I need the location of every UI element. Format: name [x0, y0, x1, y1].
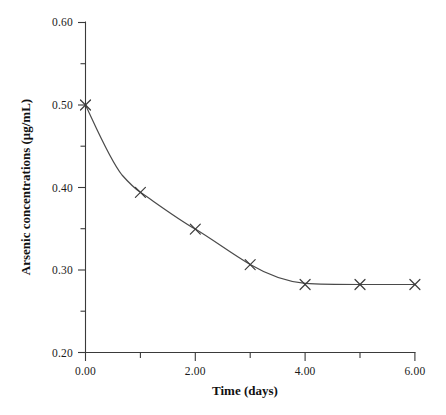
chart-page: 0.60 0.50 0.40 0.30 0.20 0.00 2.00 4.00 … [0, 0, 446, 415]
y-tick-label-040: 0.40 [52, 182, 73, 194]
x-tick-label-200: 2.00 [185, 365, 206, 377]
x-tick-label-000: 0.00 [75, 365, 96, 377]
y-axis-title: Arsenic concentrations (μg/mL) [18, 99, 33, 275]
arsenic-concentration-line-chart: 0.60 0.50 0.40 0.30 0.20 0.00 2.00 4.00 … [0, 0, 446, 415]
x-tick-label-400: 4.00 [295, 365, 316, 377]
y-tick-label-020: 0.20 [52, 347, 73, 359]
x-tick-label-600: 6.00 [404, 365, 425, 377]
y-tick-label-050: 0.50 [52, 99, 73, 111]
x-axis-title: Time (days) [212, 383, 278, 398]
y-tick-label-030: 0.30 [52, 264, 73, 276]
y-tick-label-060: 0.60 [52, 16, 73, 28]
